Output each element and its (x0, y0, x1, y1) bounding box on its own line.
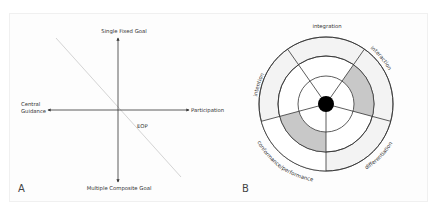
panel-a-quadrant-diagram: Single Fixed Goal Multiple Composite Goa… (18, 28, 224, 194)
center-dot (318, 96, 334, 112)
axis-label-top: Single Fixed Goal (101, 28, 146, 35)
axis-label-bottom: Multiple Composite Goal (87, 185, 152, 192)
panel-label-a: A (18, 183, 25, 194)
panel-b-radial-diagram: integration intention interaction confor… (242, 23, 393, 194)
axis-label-right: Participation (191, 107, 224, 114)
axis-label-left-1: Central (21, 101, 40, 107)
eop-diagonal-line (56, 38, 181, 177)
segment-label-top: integration (312, 23, 341, 30)
axis-label-left-2: Guidance (21, 108, 46, 114)
figure-canvas: Single Fixed Goal Multiple Composite Goa… (0, 0, 436, 209)
eop-label: EOP (137, 123, 149, 129)
panel-label-b: B (242, 183, 249, 194)
